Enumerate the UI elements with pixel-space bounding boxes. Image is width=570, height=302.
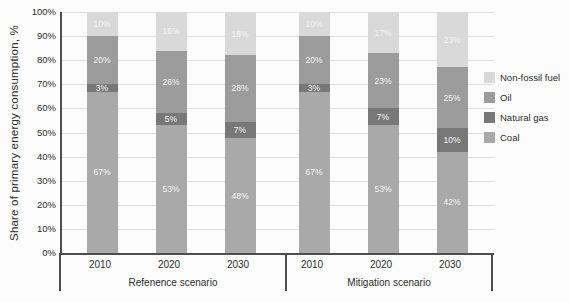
y-tick-label: 0%	[16, 248, 56, 258]
bar-segment-natural_gas: 7%	[368, 108, 399, 125]
axis-bracket	[491, 253, 493, 291]
bar-segment-oil: 25%	[437, 67, 468, 127]
gridline-60%	[62, 108, 494, 109]
year-label: 2020	[351, 259, 411, 270]
y-tick-label: 60%	[16, 103, 56, 113]
segment-label: 23%	[374, 77, 391, 85]
segment-label: 17%	[374, 29, 391, 37]
year-label: 2030	[208, 259, 268, 270]
segment-label: 67%	[93, 168, 110, 176]
bar-segment-oil: 28%	[225, 55, 256, 122]
bar-segment-coal: 48%	[225, 138, 256, 253]
year-label: 2010	[70, 259, 130, 270]
gridline-20%	[62, 205, 494, 206]
y-tick-label: 20%	[16, 200, 56, 210]
plot-area: 67%3%20%10%53%5%26%16%48%7%28%18%67%3%20…	[60, 12, 494, 255]
bar-segment-coal: 42%	[437, 152, 468, 253]
bar-segment-non_fossil: 18%	[225, 12, 256, 55]
segment-label: 28%	[231, 84, 248, 92]
bar-segment-natural_gas: 5%	[156, 113, 187, 125]
segment-label: 67%	[305, 168, 322, 176]
scenario-label: Refenence scenario	[93, 277, 253, 288]
scenario-label: Mitigation scenario	[309, 277, 469, 288]
segment-label: 42%	[443, 198, 460, 206]
gridline-30%	[62, 181, 494, 182]
stacked-bar-chart: Share of primary energy consumption, % 0…	[0, 0, 570, 302]
legend: Non-fossil fuelOilNatural gasCoal	[484, 72, 568, 152]
segment-label: 25%	[443, 94, 460, 102]
year-label: 2020	[139, 259, 199, 270]
bar-segment-coal: 53%	[156, 125, 187, 253]
gridline-50%	[62, 133, 494, 134]
segment-label: 53%	[162, 185, 179, 193]
legend-swatch-coal-icon	[484, 132, 495, 143]
segment-label: 7%	[234, 126, 246, 134]
segment-label: 53%	[374, 185, 391, 193]
legend-item-oil: Oil	[484, 92, 568, 103]
legend-label: Non-fossil fuel	[500, 72, 560, 83]
segment-label: 26%	[162, 78, 179, 86]
segment-label: 18%	[231, 30, 248, 38]
segment-label: 7%	[377, 113, 389, 121]
segment-label: 3%	[96, 84, 108, 92]
bar-mitigation-2030: 42%10%25%23%	[437, 12, 468, 253]
y-tick-label: 70%	[16, 79, 56, 89]
segment-label: 3%	[308, 84, 320, 92]
gridline-10%	[62, 229, 494, 230]
gridline-80%	[62, 60, 494, 61]
bar-segment-oil: 20%	[87, 36, 118, 84]
bar-segment-coal: 53%	[368, 125, 399, 253]
segment-label: 48%	[231, 192, 248, 200]
legend-swatch-natural_gas-icon	[484, 112, 495, 123]
axis-bracket	[59, 253, 61, 291]
bar-segment-non_fossil: 10%	[87, 12, 118, 36]
gridline-70%	[62, 84, 494, 85]
bar-segment-natural_gas: 10%	[437, 128, 468, 152]
bar-segment-oil: 23%	[368, 53, 399, 108]
y-tick-label: 90%	[16, 31, 56, 41]
segment-label: 23%	[443, 36, 460, 44]
axis-bracket	[285, 253, 287, 291]
bar-segment-oil: 20%	[299, 36, 330, 84]
y-tick-label: 10%	[16, 224, 56, 234]
year-label: 2030	[420, 259, 480, 270]
bar-segment-natural_gas: 3%	[87, 84, 118, 91]
legend-swatch-oil-icon	[484, 92, 495, 103]
gridline-40%	[62, 157, 494, 158]
y-tick-label: 30%	[16, 176, 56, 186]
legend-item-coal: Coal	[484, 132, 568, 143]
bar-segment-non_fossil: 17%	[368, 12, 399, 53]
bar-mitigation-2020: 53%7%23%17%	[368, 12, 399, 253]
bar-segment-coal: 67%	[299, 92, 330, 253]
y-tick-label: 40%	[16, 152, 56, 162]
bar-refenence-2030: 48%7%28%18%	[225, 12, 256, 253]
bar-segment-non_fossil: 10%	[299, 12, 330, 36]
legend-label: Natural gas	[500, 112, 549, 123]
year-label: 2010	[282, 259, 342, 270]
segment-label: 5%	[165, 115, 177, 123]
bar-refenence-2010: 67%3%20%10%	[87, 12, 118, 253]
legend-label: Oil	[500, 92, 512, 103]
bar-segment-natural_gas: 3%	[299, 84, 330, 91]
segment-label: 10%	[443, 136, 460, 144]
bar-refenence-2020: 53%5%26%16%	[156, 12, 187, 253]
legend-swatch-non_fossil-icon	[484, 72, 495, 83]
legend-label: Coal	[500, 132, 520, 143]
legend-item-natural_gas: Natural gas	[484, 112, 568, 123]
bar-segment-coal: 67%	[87, 92, 118, 253]
bar-segment-natural_gas: 7%	[225, 122, 256, 139]
bar-mitigation-2010: 67%3%20%10%	[299, 12, 330, 253]
segment-label: 16%	[162, 27, 179, 35]
bar-segment-non_fossil: 23%	[437, 12, 468, 67]
y-tick-label: 100%	[16, 7, 56, 17]
segment-label: 20%	[93, 56, 110, 64]
bar-segment-oil: 26%	[156, 51, 187, 114]
y-tick-label: 80%	[16, 55, 56, 65]
legend-item-non_fossil: Non-fossil fuel	[484, 72, 568, 83]
gridline-100%	[62, 12, 494, 13]
segment-label: 20%	[305, 56, 322, 64]
y-tick-label: 50%	[16, 128, 56, 138]
bar-segment-non_fossil: 16%	[156, 12, 187, 51]
segment-label: 10%	[93, 20, 110, 28]
segment-label: 10%	[305, 20, 322, 28]
